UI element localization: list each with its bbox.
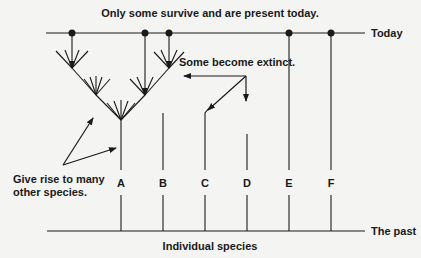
give-rise-annotation-line2: other species. xyxy=(13,186,87,198)
species-label-a: A xyxy=(117,177,125,189)
give-rise-annotation-line1: Give rise to many xyxy=(13,173,106,185)
past-label: The past xyxy=(371,225,417,237)
give-rise-arrows xyxy=(63,118,116,165)
species-label-d: D xyxy=(243,177,251,189)
extinct-arrows xyxy=(184,76,246,110)
species-label-e: E xyxy=(285,177,292,189)
x-axis-label: Individual species xyxy=(163,240,258,252)
species-label-c: C xyxy=(201,177,209,189)
evolution-diagram: Only some survive and are present today.… xyxy=(0,0,421,258)
diagram-title: Only some survive and are present today. xyxy=(101,7,318,19)
species-label-f: F xyxy=(328,177,335,189)
species-label-b: B xyxy=(159,177,167,189)
extinct-annotation: Some become extinct. xyxy=(179,56,295,68)
today-label: Today xyxy=(371,27,403,39)
